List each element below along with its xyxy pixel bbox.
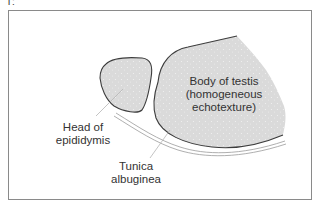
body-of-testis-label: Body of testis (homogeneous echotexture) <box>176 75 272 114</box>
tunica-leader-line <box>150 130 170 158</box>
tunica-albuginea-label-line2: albuginea <box>104 173 168 186</box>
tunica-albuginea-label: Tunica albuginea <box>104 160 168 186</box>
head-of-epididymis-label-line1: Head of <box>54 121 112 134</box>
body-of-testis-label-line3: echotexture) <box>176 101 272 114</box>
body-of-testis-label-line1: Body of testis <box>176 75 272 88</box>
head-of-epididymis-label-line2: epididymis <box>54 134 112 147</box>
body-of-testis-label-line2: (homogeneous <box>176 88 272 101</box>
head-of-epididymis-label: Head of epididymis <box>54 121 112 147</box>
tunica-albuginea-label-line1: Tunica <box>104 160 168 173</box>
